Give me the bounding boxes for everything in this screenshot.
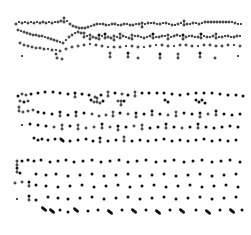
data-point-dot [173,159,176,162]
data-point-dot [45,174,48,177]
data-point-dot [57,197,60,200]
data-point-dot [40,159,43,162]
data-point-dot [165,186,168,189]
data-point-dot [175,175,178,178]
data-point-dot [127,173,130,176]
data-point-dot [211,161,214,164]
data-point-dot [79,197,82,200]
data-point-dash [228,208,235,215]
panel-bottom [0,0,251,235]
data-point-dot [213,185,216,188]
data-point-dot [164,160,167,163]
data-point-dot [109,160,112,163]
data-point-dot [139,198,142,201]
data-point-dot [151,197,154,200]
data-point-dot [235,196,238,199]
data-point-dot [73,161,76,164]
data-point-dot [93,186,96,189]
data-point-dot [103,198,106,201]
data-point-dot [223,197,226,200]
data-point-dot [57,186,60,189]
data-point-dash [106,209,113,216]
data-point-dot [55,173,58,176]
data-point-dot [45,185,48,188]
data-point-dot [163,196,166,199]
data-point-dot [91,196,94,199]
data-point-dot [127,196,130,199]
data-point-dot [189,184,192,187]
data-point-dot [35,173,38,176]
data-point-dot [57,160,60,163]
data-point-dot [141,185,144,188]
data-point-dot [145,159,148,162]
data-point-dot [79,174,82,177]
data-point-dot [177,185,180,188]
data-point-dot [65,159,68,162]
data-point-dot [241,209,244,212]
data-point-dot [82,160,85,163]
data-point-dash [178,208,185,215]
data-point-dot [187,197,190,200]
scatter-figure [0,0,251,235]
data-point-dot [16,198,18,200]
data-point-dot [201,186,204,189]
data-point-dot [201,159,204,162]
data-point-dot [97,209,100,212]
data-point-dot [35,184,38,187]
data-point-dot [91,159,94,162]
data-point-plus [21,181,24,184]
data-point-dot [163,173,166,176]
data-point-dot [47,196,50,199]
data-point-dot [127,161,130,164]
data-point-dash [40,206,47,213]
data-point-dot [136,160,139,163]
data-point-dot [192,160,195,163]
data-point-dot [183,161,186,164]
data-point-venus [16,160,19,167]
data-point-dot [59,209,62,212]
data-point-dot [35,199,38,202]
data-point-dot [81,184,84,187]
data-point-dot [121,209,124,212]
data-point-dot [199,196,202,199]
data-point-dash [154,209,161,216]
data-point-dot [27,159,30,162]
data-point-dot [229,159,232,162]
data-point-dot [67,175,70,178]
data-point-dot [91,173,94,176]
data-point-venus [28,181,31,188]
data-point-dot [151,174,154,177]
data-point-dot [223,174,226,177]
data-point-dot [169,209,172,212]
data-point-dot [67,198,70,201]
data-point-dot [49,161,52,164]
data-point-dash [72,207,79,214]
data-point-dot [118,159,121,162]
data-point-dot [19,172,22,175]
data-point-dot [117,184,120,187]
data-point-dot [129,186,132,189]
data-point-dot [187,174,190,177]
data-point-venus [28,195,31,202]
data-point-dot [239,161,242,164]
data-point-dash [130,208,137,215]
data-point-dot [69,185,72,188]
data-point-dot [33,160,36,163]
data-point-dot [100,161,103,164]
data-point-dot [225,184,228,187]
data-point-dot [220,160,223,163]
data-point-dot [103,175,106,178]
data-point-dot [155,161,158,164]
data-point-dot [195,209,198,212]
data-point-dot [153,184,156,187]
data-point-dot [87,210,90,213]
data-point-dot [115,197,118,200]
data-point-dot [211,175,214,178]
data-point-dot [235,173,238,176]
data-point-dot [145,209,148,212]
data-point-dot [139,175,142,178]
data-point-dot [21,160,24,163]
data-point-dot [219,209,222,212]
data-point-dash [48,208,55,215]
data-point-dot [175,198,178,201]
